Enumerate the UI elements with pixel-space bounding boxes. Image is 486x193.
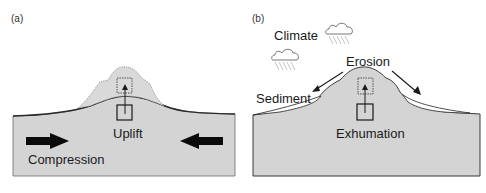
diagram-canvas: (a) Uplift Compression (b) [0, 0, 486, 193]
exhumation-label: Exhumation [336, 126, 405, 141]
panel-b: (b) Exhumation Climate Erosion Sediment [252, 13, 480, 176]
cloud-rain-icon [326, 23, 353, 44]
compression-label: Compression [28, 152, 105, 167]
panel-a-label: (a) [11, 13, 23, 24]
panel-b-label: (b) [252, 13, 264, 24]
climate-label: Climate [274, 28, 318, 43]
cloud-rain-icon [272, 49, 299, 70]
erosion-label: Erosion [346, 54, 390, 69]
crust-block-b [253, 67, 480, 176]
uplift-label: Uplift [113, 126, 143, 141]
sediment-label: Sediment [256, 91, 311, 106]
panel-a: (a) Uplift Compression [11, 13, 235, 176]
